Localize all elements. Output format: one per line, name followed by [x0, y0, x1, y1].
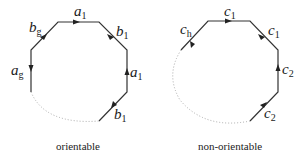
- edge-label: b1: [114, 106, 127, 124]
- arrow-a1-top: [73, 20, 80, 25]
- arrow-a1-right: [125, 68, 130, 75]
- dotted-arc: [173, 50, 250, 123]
- edge-label: c1: [224, 3, 236, 21]
- arrow-ch-upper: [190, 41, 195, 48]
- caption-orientable: orientable: [56, 140, 100, 152]
- edge-label: a1: [130, 64, 143, 82]
- orientable-polygon: a1 b1 a1 b1 ag bg orientable: [11, 3, 143, 152]
- edge-label: ch: [180, 21, 192, 39]
- caption-non-orientable: non-orientable: [198, 140, 262, 152]
- edge-label: c1: [268, 22, 280, 40]
- edge-label: a1: [74, 3, 87, 21]
- edge-label: b1: [116, 23, 129, 41]
- edge-label: ag: [11, 62, 24, 80]
- dotted-arc: [31, 92, 99, 121]
- edge-label: c2: [264, 105, 276, 123]
- edge-label: c2: [282, 61, 294, 79]
- edge-label: bg: [29, 19, 42, 37]
- polygon-diagrams: a1 b1 a1 b1 ag bg orientable c1 c1 c2 c2…: [0, 0, 307, 157]
- non-orientable-polygon: c1 c1 c2 c2 ch non-orientable: [173, 3, 294, 152]
- arrow-c2-right: [276, 64, 281, 71]
- arrow-b1-upper: [107, 34, 114, 40]
- arrow-ag-left: [29, 65, 34, 72]
